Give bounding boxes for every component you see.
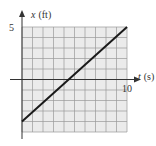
y-tick-label-5: 5 bbox=[9, 22, 14, 33]
x-tick-label-10: 10 bbox=[122, 83, 132, 94]
position-time-graph: x(ft) t(s) 5 10 bbox=[0, 0, 156, 146]
x-axis-label: t(s) bbox=[138, 71, 154, 83]
plot-area bbox=[10, 10, 141, 139]
x-axis-arrow-icon bbox=[19, 10, 25, 17]
y-axis-label: x(ft) bbox=[30, 9, 51, 21]
